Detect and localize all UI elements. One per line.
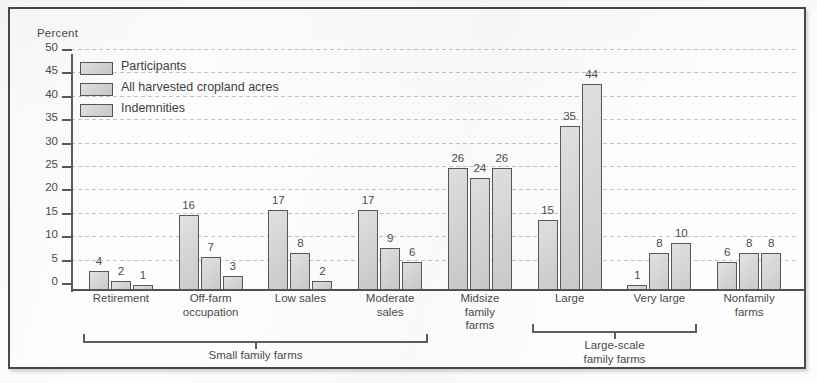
bar [717, 262, 737, 290]
y-tick-label: 25 [32, 158, 58, 170]
y-tick-label: 0 [32, 275, 58, 287]
bar [223, 276, 243, 290]
y-tick-label: 10 [32, 228, 58, 240]
bar [671, 243, 691, 290]
x-category-label: Nonfamilyfarms [694, 292, 804, 319]
bar [358, 210, 378, 290]
bar-value-label: 17 [263, 194, 293, 206]
bar-value-label: 26 [487, 152, 517, 164]
legend-swatch [80, 62, 113, 75]
y-tick-label: 45 [32, 64, 58, 76]
bar [649, 253, 669, 290]
bar [268, 210, 288, 290]
bar [761, 253, 781, 290]
bar [582, 84, 602, 290]
group-bracket-label-line: Large-scale [535, 339, 695, 353]
bar [448, 168, 468, 290]
bar-value-label: 7 [196, 241, 226, 253]
bar-value-label: 15 [533, 204, 563, 216]
bar [560, 126, 580, 290]
bar-value-label: 3 [218, 260, 248, 272]
y-tick-label: 15 [32, 205, 58, 217]
y-tick-label: 40 [32, 88, 58, 100]
bar [133, 285, 153, 290]
bar-value-label: 1 [128, 269, 158, 281]
bar [402, 262, 422, 290]
bar-value-label: 35 [555, 110, 585, 122]
bar-value-label: 17 [353, 194, 383, 206]
y-tick-label: 30 [32, 135, 58, 147]
group-bracket-stem [614, 332, 616, 339]
bar-value-label: 8 [285, 237, 315, 249]
x-category-label-line: occupation [156, 306, 266, 320]
bar-value-label: 44 [577, 68, 607, 80]
bar [492, 168, 512, 290]
gridline [64, 49, 797, 50]
x-category-label-line: farms [425, 319, 535, 333]
y-tick-label: 5 [32, 252, 58, 264]
group-bracket-stem [255, 342, 257, 349]
group-bracket-label: Small family farms [176, 349, 336, 363]
y-tick-label: 50 [32, 41, 58, 53]
bar [627, 285, 647, 290]
group-bracket-label-line: Small family farms [176, 349, 336, 363]
bar-value-label: 8 [756, 237, 786, 249]
y-tick-label: 35 [32, 111, 58, 123]
bar-value-label: 2 [307, 265, 337, 277]
legend-label: All harvested cropland acres [121, 80, 279, 94]
bar-value-label: 9 [375, 232, 405, 244]
x-category-label-line: Nonfamily [694, 292, 804, 306]
group-bracket-label: Large-scalefamily farms [535, 339, 695, 366]
bar-value-label: 1 [622, 269, 652, 281]
y-tick-mark [62, 49, 72, 51]
bar [312, 281, 332, 290]
x-category-label-line: farms [694, 306, 804, 320]
bar-value-label: 6 [397, 246, 427, 258]
x-category-label-line: family [425, 306, 535, 320]
y-axis-title: Percent [37, 27, 78, 39]
bar [739, 253, 759, 290]
y-tick-label: 20 [32, 181, 58, 193]
bar-value-label: 10 [666, 227, 696, 239]
legend-swatch [80, 83, 113, 96]
legend-label: Participants [121, 59, 186, 73]
legend-swatch [80, 104, 113, 117]
chart-frame: Percent 05101520253035404550 42116731782… [8, 7, 806, 369]
bar [111, 281, 131, 290]
legend-label: Indemnities [121, 101, 185, 115]
chart-figure: Percent 05101520253035404550 42116731782… [0, 0, 817, 383]
bar-value-label: 16 [174, 199, 204, 211]
bar [470, 178, 490, 290]
bar [538, 220, 558, 290]
group-bracket-label-line: family farms [535, 353, 695, 367]
